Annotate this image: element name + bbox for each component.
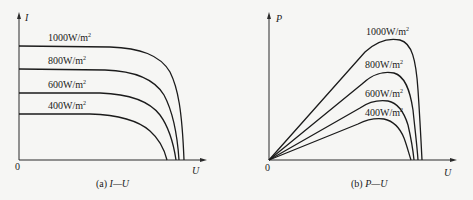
series-label-800: 800W/m2: [48, 55, 86, 66]
series-label-400: 400W/m2: [48, 100, 86, 111]
x-axis-arrow-icon: [450, 158, 457, 162]
chart-pu: P 0 U 1000W/m2 800W/m2 600W/m2 400W/m2 (…: [265, 12, 457, 190]
chart-iu: I 0 U 1000W/m2 800W/m2 600W/m2 400W/m2 (…: [15, 12, 207, 190]
series-label-1000: 1000W/m2: [48, 32, 91, 43]
caption-b: (b) P—U: [351, 178, 388, 190]
figure: I 0 U 1000W/m2 800W/m2 600W/m2 400W/m2 (…: [0, 0, 473, 200]
series-label-600: 600W/m2: [365, 88, 403, 99]
y-axis-arrow-icon: [267, 12, 271, 19]
y-axis-label: I: [24, 12, 29, 23]
origin-label: 0: [265, 162, 270, 173]
x-axis-arrow-icon: [200, 158, 207, 162]
origin-label: 0: [15, 161, 20, 172]
series-label-1000: 1000W/m2: [366, 26, 409, 37]
pu-curve-400: [269, 119, 411, 160]
iu-curve-600: [19, 93, 176, 160]
series-label-800: 800W/m2: [365, 59, 403, 70]
y-axis-arrow-icon: [17, 12, 21, 19]
caption-a: (a) I—U: [96, 178, 130, 190]
x-axis-label: U: [192, 165, 200, 176]
series-label-600: 600W/m2: [48, 79, 86, 90]
iu-curve-400: [19, 114, 167, 160]
series-label-400: 400W/m2: [365, 107, 403, 118]
figure-canvas: I 0 U 1000W/m2 800W/m2 600W/m2 400W/m2 (…: [0, 0, 473, 200]
x-axis-label: U: [444, 167, 452, 178]
y-axis-label: P: [275, 13, 282, 24]
